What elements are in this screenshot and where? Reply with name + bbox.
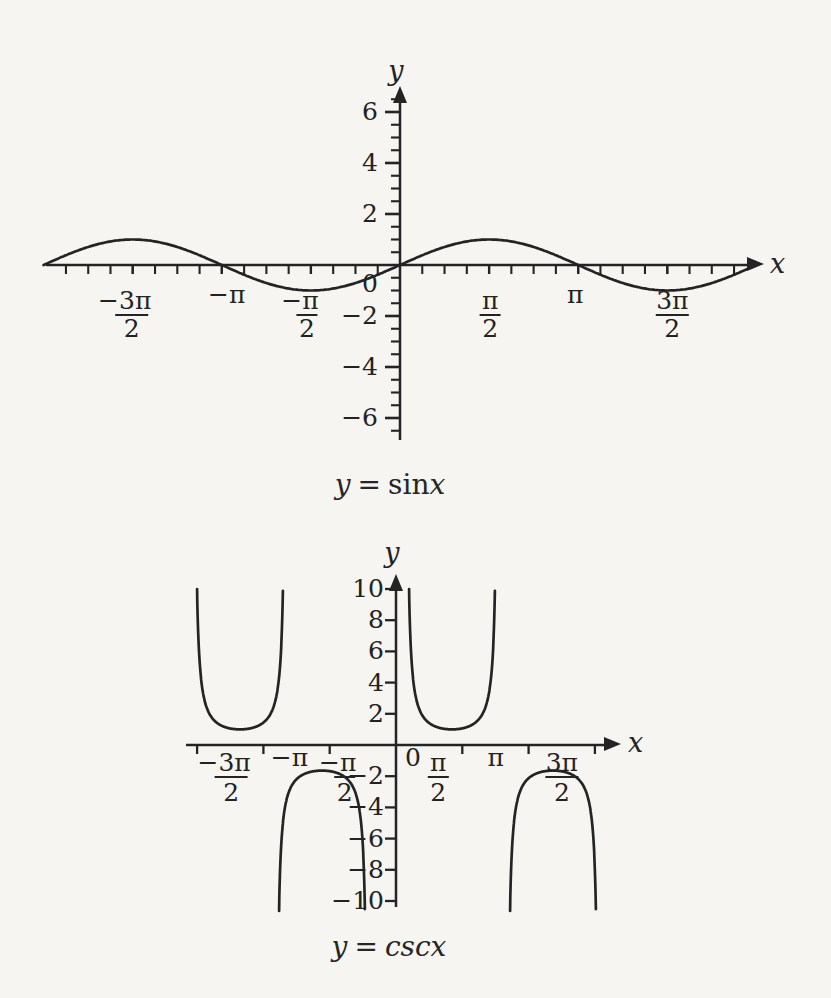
y-tick-label: 6 xyxy=(368,636,384,665)
y-tick-label: −4 xyxy=(347,792,384,821)
x-tick-label-numerator: π xyxy=(482,286,498,315)
caption-equals: = xyxy=(354,930,377,963)
y-tick-label: 4 xyxy=(362,148,378,177)
textbook-figure-page: xy−3π2−π−π2π2π3π26420−2−4−6xy−3π2−π−π20π… xyxy=(0,0,831,998)
y-tick-label: 4 xyxy=(368,668,384,697)
y-tick-label: 2 xyxy=(368,699,384,728)
y-axis-var-label: y xyxy=(383,537,400,568)
x-tick-label: −π xyxy=(208,280,245,309)
y-tick-label: 0 xyxy=(362,269,378,298)
y-tick-label: −2 xyxy=(341,301,378,330)
y-tick-label: 6 xyxy=(362,97,378,126)
csc-plot: xy−3π2−π−π20π2π3π2108642−2−4−6−8−10 xyxy=(186,537,643,915)
x-tick-label: 0 xyxy=(405,743,421,772)
sin-caption: y=sinx xyxy=(335,468,445,501)
x-tick-label-numerator: π xyxy=(430,748,446,777)
caption-variable: y xyxy=(332,930,348,963)
y-tick-label: −10 xyxy=(331,886,384,915)
x-tick-label-denominator: 2 xyxy=(299,314,315,343)
caption-function: sin xyxy=(388,468,429,501)
y-tick-label: −6 xyxy=(341,403,378,432)
caption-equals: = xyxy=(358,468,381,501)
cosecant-branch xyxy=(197,589,283,729)
y-tick-label: −4 xyxy=(341,352,378,381)
x-tick-label-denominator: 2 xyxy=(554,778,570,807)
caption-argument: x xyxy=(431,930,447,963)
caption-variable: y xyxy=(335,468,351,501)
sin-plot: xy−3π2−π−π2π2π3π26420−2−4−6 xyxy=(44,55,786,440)
x-tick-label-denominator: 2 xyxy=(430,778,446,807)
caption-function: csc xyxy=(385,930,431,963)
x-tick-label-denominator: 2 xyxy=(223,778,239,807)
x-tick-label-numerator: −3π xyxy=(197,748,250,777)
x-axis-var-label: x xyxy=(628,727,643,758)
x-tick-label: −π xyxy=(271,743,308,772)
y-tick-label: 8 xyxy=(368,605,384,634)
caption-argument: x xyxy=(429,468,445,501)
x-tick-label-denominator: 2 xyxy=(664,314,680,343)
x-axis-arrow xyxy=(604,737,621,751)
x-tick-label-denominator: 2 xyxy=(124,314,140,343)
y-tick-label: −6 xyxy=(347,824,384,853)
y-tick-label: −8 xyxy=(347,855,384,884)
x-tick-label: π xyxy=(567,280,583,309)
x-tick-label-denominator: 2 xyxy=(482,314,498,343)
x-tick-label: π xyxy=(487,743,503,772)
x-axis-var-label: x xyxy=(770,248,785,279)
x-tick-label-numerator: −3π xyxy=(98,286,151,315)
cosecant-branch xyxy=(409,589,495,729)
y-axis-arrow xyxy=(393,86,407,103)
csc-caption: y=cscx xyxy=(332,930,447,963)
y-tick-label: 10 xyxy=(352,574,384,603)
y-tick-label: 2 xyxy=(362,199,378,228)
y-axis-var-label: y xyxy=(387,55,404,86)
